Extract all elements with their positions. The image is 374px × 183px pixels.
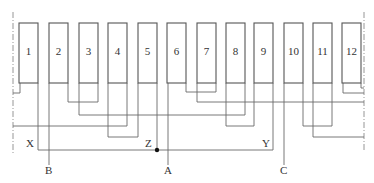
wire-slot1-left [13, 83, 20, 93]
junction-dot-z [155, 148, 159, 152]
label-b: B [45, 164, 52, 176]
slot-number: 10 [288, 45, 300, 57]
slot-number: 12 [346, 45, 357, 57]
slot-number: 11 [317, 45, 328, 57]
label-y: Y [262, 137, 270, 149]
wire-slot9-right-y [157, 83, 273, 150]
slot-number: 3 [86, 45, 92, 57]
wire-slot7-left-run [197, 83, 364, 102]
slot-number: 8 [233, 45, 239, 57]
wire-slot6-slot7 [186, 83, 216, 92]
wire-slot8-slot9 [226, 83, 254, 126]
wire-slot2-slot3 [68, 83, 98, 102]
wire-slot1-right-x [38, 83, 157, 150]
winding-diagram: 1 2 3 4 5 6 7 8 9 10 11 12 X Z Y B A C [0, 0, 374, 183]
slot-number: 9 [261, 45, 267, 57]
slots [19, 23, 361, 83]
slot-number: 2 [56, 45, 62, 57]
slot-number: 4 [115, 45, 121, 57]
label-z: Z [145, 137, 152, 149]
wire-slot4-right [13, 83, 127, 126]
wire-slot11-left [313, 83, 364, 137]
slot-number: 5 [145, 45, 151, 57]
slot-number: 1 [26, 45, 32, 57]
slot-numbers: 1 2 3 4 5 6 7 8 9 10 11 12 [26, 45, 357, 57]
wires [13, 83, 364, 165]
wire-slot4-slot5 [108, 83, 138, 137]
wire-slot3-left-run [79, 83, 245, 115]
label-a: A [164, 164, 172, 176]
wire-slot10-slot11 [303, 83, 332, 126]
label-x: X [26, 137, 34, 149]
label-c: C [280, 164, 287, 176]
slot-number: 6 [174, 45, 180, 57]
slot-number: 7 [204, 45, 210, 57]
